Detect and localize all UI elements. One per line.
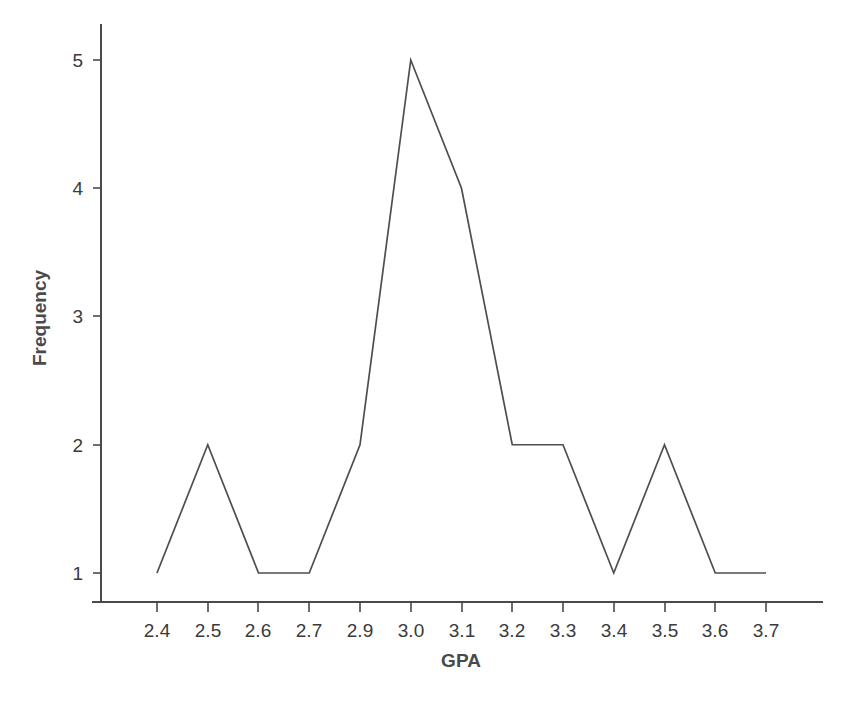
x-tick-label: 2.4 [144,620,171,641]
x-tick-label: 3.0 [398,620,424,641]
x-tick-label: 3.4 [601,620,628,641]
frequency-polygon-line [157,60,766,573]
x-tick-marks [157,602,766,612]
x-tick-label: 3.6 [702,620,728,641]
y-tick-label: 2 [72,435,83,456]
y-tick-labels: 5 4 3 2 1 [72,50,83,584]
chart-canvas: 5 4 3 2 1 Frequency 2.4 2.5 [0,0,854,702]
y-axis-title: Frequency [29,270,50,367]
x-tick-label: 2.7 [296,620,322,641]
x-axis-title: GPA [441,650,481,671]
x-tick-label: 3.1 [449,620,475,641]
y-tick-label: 5 [72,50,83,71]
x-tick-label: 2.5 [195,620,221,641]
y-tick-label: 4 [72,178,83,199]
x-tick-labels: 2.4 2.5 2.6 2.7 2.9 3.0 3.1 3.2 3.3 3.4 … [144,620,779,641]
frequency-polygon-figure: 5 4 3 2 1 Frequency 2.4 2.5 [0,0,854,702]
x-tick-label: 3.5 [652,620,678,641]
y-tick-label: 3 [72,306,83,327]
y-tick-marks [93,60,101,573]
x-tick-label: 2.6 [245,620,271,641]
x-tick-label: 3.2 [499,620,525,641]
x-tick-label: 2.9 [347,620,373,641]
y-tick-label: 1 [72,563,83,584]
x-tick-label: 3.3 [550,620,576,641]
x-tick-label: 3.7 [753,620,779,641]
